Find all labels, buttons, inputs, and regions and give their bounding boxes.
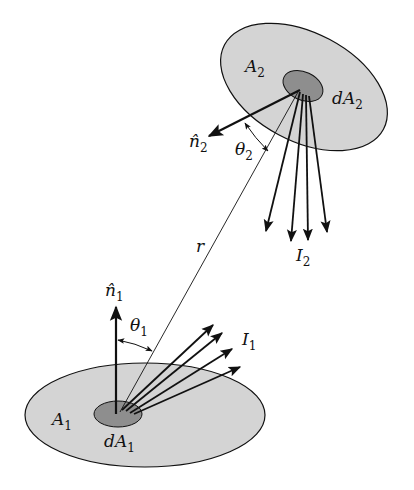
label-r: r — [196, 236, 205, 256]
theta2-arc — [245, 123, 268, 151]
radiation-exchange-diagram: A2 dA2 n̂2 θ2 I2 r n̂1 θ1 I1 A1 dA1 — [0, 0, 414, 490]
label-theta1: θ1 — [130, 315, 148, 339]
surface-a2 — [199, 0, 409, 177]
label-n1: n̂1 — [105, 280, 124, 304]
label-i1: I1 — [241, 329, 256, 353]
label-theta2: θ2 — [235, 139, 253, 163]
theta1-arc — [118, 340, 152, 351]
label-i2: I2 — [295, 245, 310, 269]
label-n2: n̂2 — [189, 131, 208, 155]
